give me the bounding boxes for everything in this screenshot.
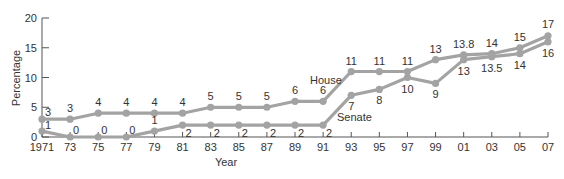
y-tick-label: 15 <box>25 42 37 54</box>
data-label-senate: 1 <box>151 114 157 126</box>
data-label-house: 4 <box>179 96 185 108</box>
x-tick-label: 07 <box>542 141 554 153</box>
data-point-house <box>291 98 298 105</box>
data-label-senate: 2 <box>298 127 304 139</box>
data-label-senate: 13.5 <box>481 62 502 74</box>
x-tick-label: 89 <box>289 141 301 153</box>
data-point-senate <box>488 53 495 60</box>
data-label-house: 11 <box>346 55 357 67</box>
data-point-house <box>376 68 383 75</box>
data-label-house: 3 <box>45 106 51 118</box>
data-label-senate: 9 <box>432 88 438 100</box>
x-tick-label: 05 <box>514 141 526 153</box>
series-label-senate: Senate <box>337 111 372 123</box>
x-tick-label: 95 <box>373 141 385 153</box>
data-label-house: 13.8 <box>453 38 474 50</box>
x-tick-label: 91 <box>317 141 329 153</box>
data-label-senate: 0 <box>73 124 79 136</box>
x-axis-title: Year <box>215 156 238 168</box>
data-point-senate <box>544 38 551 45</box>
x-tick-label: 99 <box>429 141 441 153</box>
data-label-house: 5 <box>264 90 270 102</box>
data-label-house: 3 <box>67 102 73 114</box>
data-label-senate: 2 <box>270 127 276 139</box>
x-tick-label: 73 <box>64 141 76 153</box>
y-tick-label: 5 <box>31 101 37 113</box>
x-tick-label: 03 <box>486 141 498 153</box>
data-point-senate <box>348 92 355 99</box>
data-point-house <box>320 98 327 105</box>
data-point-house <box>123 110 130 117</box>
data-label-house: 11 <box>402 55 413 67</box>
data-label-house: 4 <box>95 96 101 108</box>
data-label-house: 6 <box>292 84 298 96</box>
data-label-house: 6 <box>320 84 326 96</box>
data-point-house <box>432 56 439 63</box>
data-point-house <box>207 104 214 111</box>
data-label-senate: 1 <box>45 119 51 131</box>
x-tick-label: 93 <box>345 141 357 153</box>
data-point-senate <box>151 127 158 134</box>
data-point-senate <box>376 86 383 93</box>
y-tick-label: 10 <box>25 72 37 84</box>
data-label-house: 13 <box>429 43 441 55</box>
data-label-house: 14 <box>486 37 498 49</box>
data-label-house: 17 <box>542 18 554 30</box>
data-label-house: 15 <box>514 31 526 43</box>
x-tick-label: 1971 <box>30 141 54 153</box>
data-point-senate <box>404 74 411 81</box>
data-label-house: 5 <box>208 90 214 102</box>
data-point-house <box>95 110 102 117</box>
x-tick-label: 83 <box>205 141 217 153</box>
data-point-house <box>348 68 355 75</box>
data-point-senate <box>432 80 439 87</box>
data-point-house <box>263 104 270 111</box>
data-label-house: 5 <box>236 90 242 102</box>
data-point-house <box>179 110 186 117</box>
data-label-senate: 14 <box>514 59 526 71</box>
data-label-senate: 2 <box>242 127 248 139</box>
x-tick-label: 87 <box>261 141 273 153</box>
data-label-house: 4 <box>151 96 157 108</box>
data-label-senate: 2 <box>326 127 332 139</box>
x-tick-label: 01 <box>458 141 470 153</box>
data-label-house: 4 <box>123 96 129 108</box>
data-label-senate: 10 <box>401 83 413 95</box>
x-tick-label: 75 <box>92 141 104 153</box>
series-label-house: House <box>310 74 342 86</box>
data-point-house <box>235 104 242 111</box>
data-point-senate <box>516 50 523 57</box>
x-tick-label: 79 <box>148 141 160 153</box>
data-label-senate: 0 <box>101 124 107 136</box>
x-tick-label: 77 <box>120 141 132 153</box>
y-tick-label: 20 <box>25 12 37 24</box>
data-point-senate <box>460 56 467 63</box>
data-label-senate: 2 <box>214 127 220 139</box>
data-label-senate: 8 <box>376 94 382 106</box>
data-point-house <box>67 116 74 123</box>
y-axis-title: Percentage <box>10 50 22 106</box>
data-label-senate: 2 <box>186 127 192 139</box>
data-label-senate: 13 <box>458 65 470 77</box>
data-label-house: 11 <box>374 55 385 67</box>
data-label-senate: 16 <box>542 47 554 59</box>
x-tick-label: 97 <box>401 141 413 153</box>
x-tick-label: 81 <box>176 141 188 153</box>
data-label-senate: 0 <box>129 124 135 136</box>
line-chart: 0510152019717375777981838587899193959799… <box>0 0 564 179</box>
data-labels: 334444555661111111313.814151710001222222… <box>45 18 554 139</box>
x-tick-label: 85 <box>233 141 245 153</box>
